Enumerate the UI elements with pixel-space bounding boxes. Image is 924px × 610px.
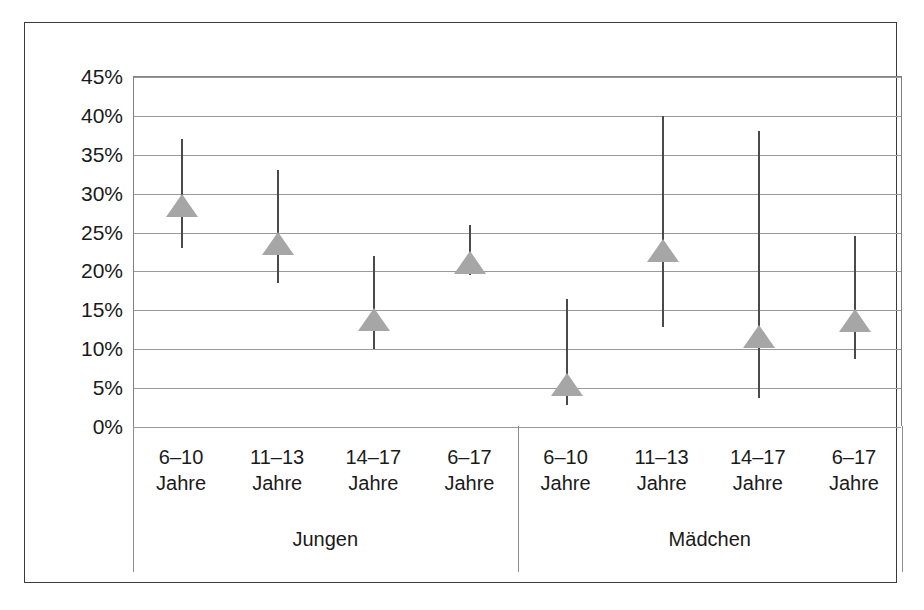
error-bar xyxy=(277,170,279,283)
y-axis-tick-label: 15% xyxy=(47,299,123,320)
category-label-unit: Jahre xyxy=(794,470,914,496)
figure-border: 45%40%35%30%25%20%15%10%5%0% 6–10Jahre11… xyxy=(24,22,897,583)
group-edge-line xyxy=(902,426,903,572)
gridline-5 xyxy=(134,388,901,389)
marker-triangle xyxy=(839,309,871,332)
category-label-range: 6–17 xyxy=(794,444,914,470)
y-axis-tick-label: 5% xyxy=(47,377,123,398)
y-axis-tick-label: 40% xyxy=(47,104,123,125)
y-axis-tick-label: 10% xyxy=(47,338,123,359)
gridline-45 xyxy=(134,77,901,78)
y-axis-tick-label: 25% xyxy=(47,221,123,242)
y-axis-labels: 45%40%35%30%25%20%15%10%5%0% xyxy=(39,76,123,426)
group-label: Jungen xyxy=(185,529,465,549)
gridline-30 xyxy=(134,194,901,195)
gridline-35 xyxy=(134,155,901,156)
gridline-10 xyxy=(134,349,901,350)
category-axis: 6–10Jahre11–13Jahre14–17Jahre6–17Jahre6–… xyxy=(133,426,902,586)
plot-area xyxy=(133,76,902,426)
group-edge-line xyxy=(133,426,134,572)
y-axis-tick-label: 30% xyxy=(47,182,123,203)
chart-figure: 45%40%35%30%25%20%15%10%5%0% 6–10Jahre11… xyxy=(0,0,924,610)
marker-triangle xyxy=(551,373,583,396)
marker-triangle xyxy=(166,194,198,217)
error-bar xyxy=(758,131,760,398)
error-bar xyxy=(662,116,664,328)
y-axis-tick-label: 0% xyxy=(47,416,123,437)
y-axis-tick-label: 20% xyxy=(47,260,123,281)
group-divider xyxy=(518,426,519,572)
gridline-15 xyxy=(134,310,901,311)
marker-triangle xyxy=(262,232,294,255)
marker-triangle xyxy=(358,308,390,331)
error-bar xyxy=(854,236,856,358)
y-axis-tick-label: 45% xyxy=(47,66,123,87)
y-axis-tick-label: 35% xyxy=(47,143,123,164)
category-label: 6–17Jahre xyxy=(794,444,914,497)
group-label: Mädchen xyxy=(570,529,850,549)
gridline-40 xyxy=(134,116,901,117)
marker-triangle xyxy=(647,239,679,262)
gridline-20 xyxy=(134,271,901,272)
marker-triangle xyxy=(743,325,775,348)
error-bar xyxy=(373,256,375,349)
gridline-25 xyxy=(134,233,901,234)
marker-triangle xyxy=(454,251,486,274)
